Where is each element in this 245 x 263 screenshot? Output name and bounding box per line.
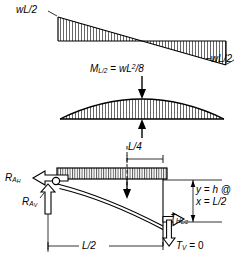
- shear-left-value-label: wL/2: [16, 4, 37, 16]
- sag-note-line-1: y = h @: [196, 184, 231, 196]
- moment-label-denominator: /8: [136, 63, 144, 74]
- diagram-canvas: [0, 0, 245, 263]
- tension-vertical-label: TV = 0: [176, 240, 203, 252]
- reaction-vertical-subscript: AV: [29, 200, 37, 207]
- sag-dim-arrowhead-bottom-icon: [191, 215, 196, 222]
- pin-support-icon: [52, 177, 59, 184]
- tension-vertical-subscript: V: [182, 244, 186, 251]
- moment-max-label: ML/2 = wL2/8: [90, 63, 144, 75]
- structural-diagram-figure: wL/2 −wL/2 ML/2 = wL2/8 L/4 L/2 RAH RAV …: [0, 0, 245, 263]
- quarter-span-dimension-label: L/4: [128, 141, 142, 153]
- sag-dim-arrowhead-top-icon: [191, 180, 196, 187]
- sag-note-label: y = h @ x = L/2: [196, 184, 231, 208]
- tension-horizontal-label: THL/2: [170, 213, 188, 226]
- moment-label-subscript: L/2: [98, 67, 107, 74]
- moment-bottom-arrowhead-icon: [138, 119, 146, 129]
- free-body-group: [33, 146, 222, 252]
- moment-top-arrowhead-icon: [138, 89, 146, 99]
- moment-label-equals: =: [110, 63, 116, 74]
- reaction-vertical-label: RAV: [22, 196, 37, 209]
- cable-strand-inner: [60, 189, 164, 230]
- tension-vertical-value: = 0: [189, 240, 203, 251]
- reaction-vertical-leader: [40, 193, 44, 198]
- resultant-load-arrowhead-icon: [123, 189, 131, 199]
- reaction-vertical-arrow-icon: [41, 184, 55, 214]
- shear-right-value-label: −wL/2: [205, 53, 232, 65]
- moment-diagram-group: [60, 76, 224, 138]
- tension-horizontal-subscript: HL/2: [176, 217, 188, 224]
- half-span-dimension-label: L/2: [82, 240, 96, 252]
- sag-note-line-2: x = L/2: [196, 196, 231, 208]
- loaded-beam: [57, 168, 167, 179]
- reaction-horizontal-subscript: AH: [12, 176, 20, 183]
- reaction-horizontal-label: RAH: [5, 172, 20, 185]
- shear-left-leader: [48, 11, 57, 16]
